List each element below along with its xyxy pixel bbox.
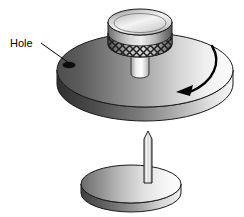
- knob-top-face: [108, 9, 172, 35]
- lower-disc-assembly: [81, 131, 181, 212]
- lower-disc-top-face: [81, 165, 181, 203]
- knob-assembly-illustration: Hole: [0, 0, 244, 217]
- hole-leader-line: [41, 43, 69, 63]
- upper-disc-assembly: [57, 9, 233, 121]
- illustration-canvas: Hole: [0, 0, 244, 217]
- hole-label: Hole: [10, 37, 33, 49]
